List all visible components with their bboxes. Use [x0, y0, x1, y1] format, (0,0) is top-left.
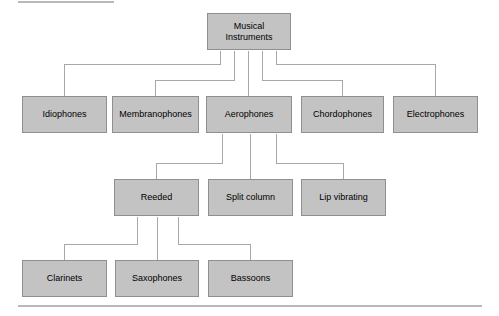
node-label: Musical Instruments [208, 21, 290, 43]
node-label: Aerophones [207, 109, 291, 120]
node-label: Lip vibrating [302, 192, 385, 203]
node-label: Clarinets [23, 273, 106, 284]
node-idiophones[interactable]: Idiophones [22, 96, 107, 133]
node-label: Chordophones [302, 109, 383, 120]
top-horizontal-rule [18, 1, 114, 3]
edge-root-electrophones [277, 51, 436, 97]
node-label: Bassoons [209, 273, 292, 284]
edge-aerophones-lipvibrating [277, 134, 344, 180]
node-lip-vibrating[interactable]: Lip vibrating [301, 179, 386, 216]
node-reeded[interactable]: Reeded [114, 179, 199, 216]
edge-reeded-clarinets [65, 217, 138, 261]
node-label: Split column [209, 192, 292, 203]
node-musical-instruments[interactable]: Musical Instruments [207, 13, 291, 50]
node-aerophones[interactable]: Aerophones [206, 96, 292, 133]
node-saxophones[interactable]: Saxophones [115, 260, 199, 297]
edge-aerophones-reeded [157, 134, 223, 180]
node-label: Membranophones [113, 109, 198, 120]
bottom-horizontal-rule [18, 305, 482, 307]
diagram-canvas: Musical Instruments Idiophones Membranop… [0, 0, 499, 316]
edge-root-membranophones [156, 51, 235, 97]
node-label: Idiophones [23, 109, 106, 120]
node-label: Saxophones [116, 273, 198, 284]
node-membranophones[interactable]: Membranophones [112, 96, 199, 133]
edge-root-chordophones [263, 51, 343, 97]
node-chordophones[interactable]: Chordophones [301, 96, 384, 133]
node-electrophones[interactable]: Electrophones [393, 96, 478, 133]
node-split-column[interactable]: Split column [208, 179, 293, 216]
node-clarinets[interactable]: Clarinets [22, 260, 107, 297]
edge-root-idiophones [65, 51, 221, 97]
node-bassoons[interactable]: Bassoons [208, 260, 293, 297]
node-label: Electrophones [394, 109, 477, 120]
edge-reeded-bassoons [179, 217, 251, 261]
node-label: Reeded [115, 192, 198, 203]
